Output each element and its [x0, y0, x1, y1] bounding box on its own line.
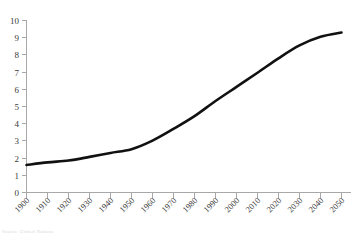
- x-tick-label-2050: 2050: [327, 195, 346, 214]
- y-axis-tick-labels: 10 9 8 7 6 5 4 3 2 1 0: [10, 16, 20, 198]
- y-tick-label-5: 5: [15, 102, 20, 112]
- y-tick-label-7: 7: [15, 68, 20, 78]
- x-tick-label-1950: 1950: [117, 195, 136, 214]
- x-tick-label-1910: 1910: [33, 195, 52, 214]
- y-axis-ticks: [22, 21, 27, 193]
- source-caption: Source: United Nations: [2, 229, 53, 235]
- y-tick-label-6: 6: [15, 85, 20, 95]
- x-tick-label-1930: 1930: [75, 195, 94, 214]
- x-tick-label-1990: 1990: [201, 195, 220, 214]
- series-group: [27, 33, 342, 165]
- line-chart: 10 9 8 7 6 5 4 3 2 1 0: [0, 0, 361, 241]
- x-tick-label-2020: 2020: [264, 195, 283, 214]
- x-tick-label-1980: 1980: [180, 195, 199, 214]
- y-tick-label-8: 8: [15, 50, 20, 60]
- y-tick-label-3: 3: [15, 136, 20, 146]
- data-series-line: [27, 33, 342, 165]
- x-axis-tick-labels: 1900 1910 1920 1930 1940 1950 1960 1970 …: [12, 195, 346, 214]
- x-tick-label-2040: 2040: [306, 195, 325, 214]
- x-tick-label-1970: 1970: [159, 195, 178, 214]
- x-tick-label-2030: 2030: [285, 195, 304, 214]
- y-tick-label-2: 2: [15, 154, 20, 164]
- y-tick-label-10: 10: [10, 16, 20, 26]
- x-tick-label-2000: 2000: [222, 195, 241, 214]
- y-tick-label-0: 0: [15, 188, 20, 198]
- x-tick-label-1920: 1920: [54, 195, 73, 214]
- y-axis: 10 9 8 7 6 5 4 3 2 1 0: [10, 16, 27, 198]
- x-axis: 1900 1910 1920 1930 1940 1950 1960 1970 …: [12, 193, 351, 215]
- x-axis-ticks: [27, 193, 342, 198]
- chart-container: 10 9 8 7 6 5 4 3 2 1 0: [0, 0, 361, 241]
- x-tick-label-1900: 1900: [12, 195, 31, 214]
- x-tick-label-1960: 1960: [138, 195, 157, 214]
- y-tick-label-1: 1: [15, 171, 20, 181]
- y-tick-label-4: 4: [15, 119, 20, 129]
- x-tick-label-2010: 2010: [243, 195, 262, 214]
- x-tick-label-1940: 1940: [96, 195, 115, 214]
- y-tick-label-9: 9: [15, 33, 20, 43]
